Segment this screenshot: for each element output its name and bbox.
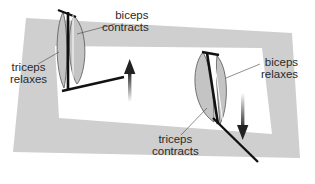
arrow-up-icon [124,59,135,102]
label-right-triceps: triceps contracts [152,133,199,157]
diagram-canvas: biceps contracts triceps relaxes biceps … [0,0,315,184]
label-right-biceps: biceps relaxes [261,56,298,80]
left-forearm-bone [62,77,124,91]
label-left-biceps: biceps contracts [102,9,149,33]
label-left-triceps: triceps relaxes [10,61,47,85]
